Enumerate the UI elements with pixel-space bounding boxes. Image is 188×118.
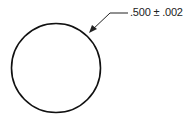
circle-feature [12,24,101,113]
leader-line [91,13,128,31]
dimension-label: .500 ± .002 [130,6,183,18]
